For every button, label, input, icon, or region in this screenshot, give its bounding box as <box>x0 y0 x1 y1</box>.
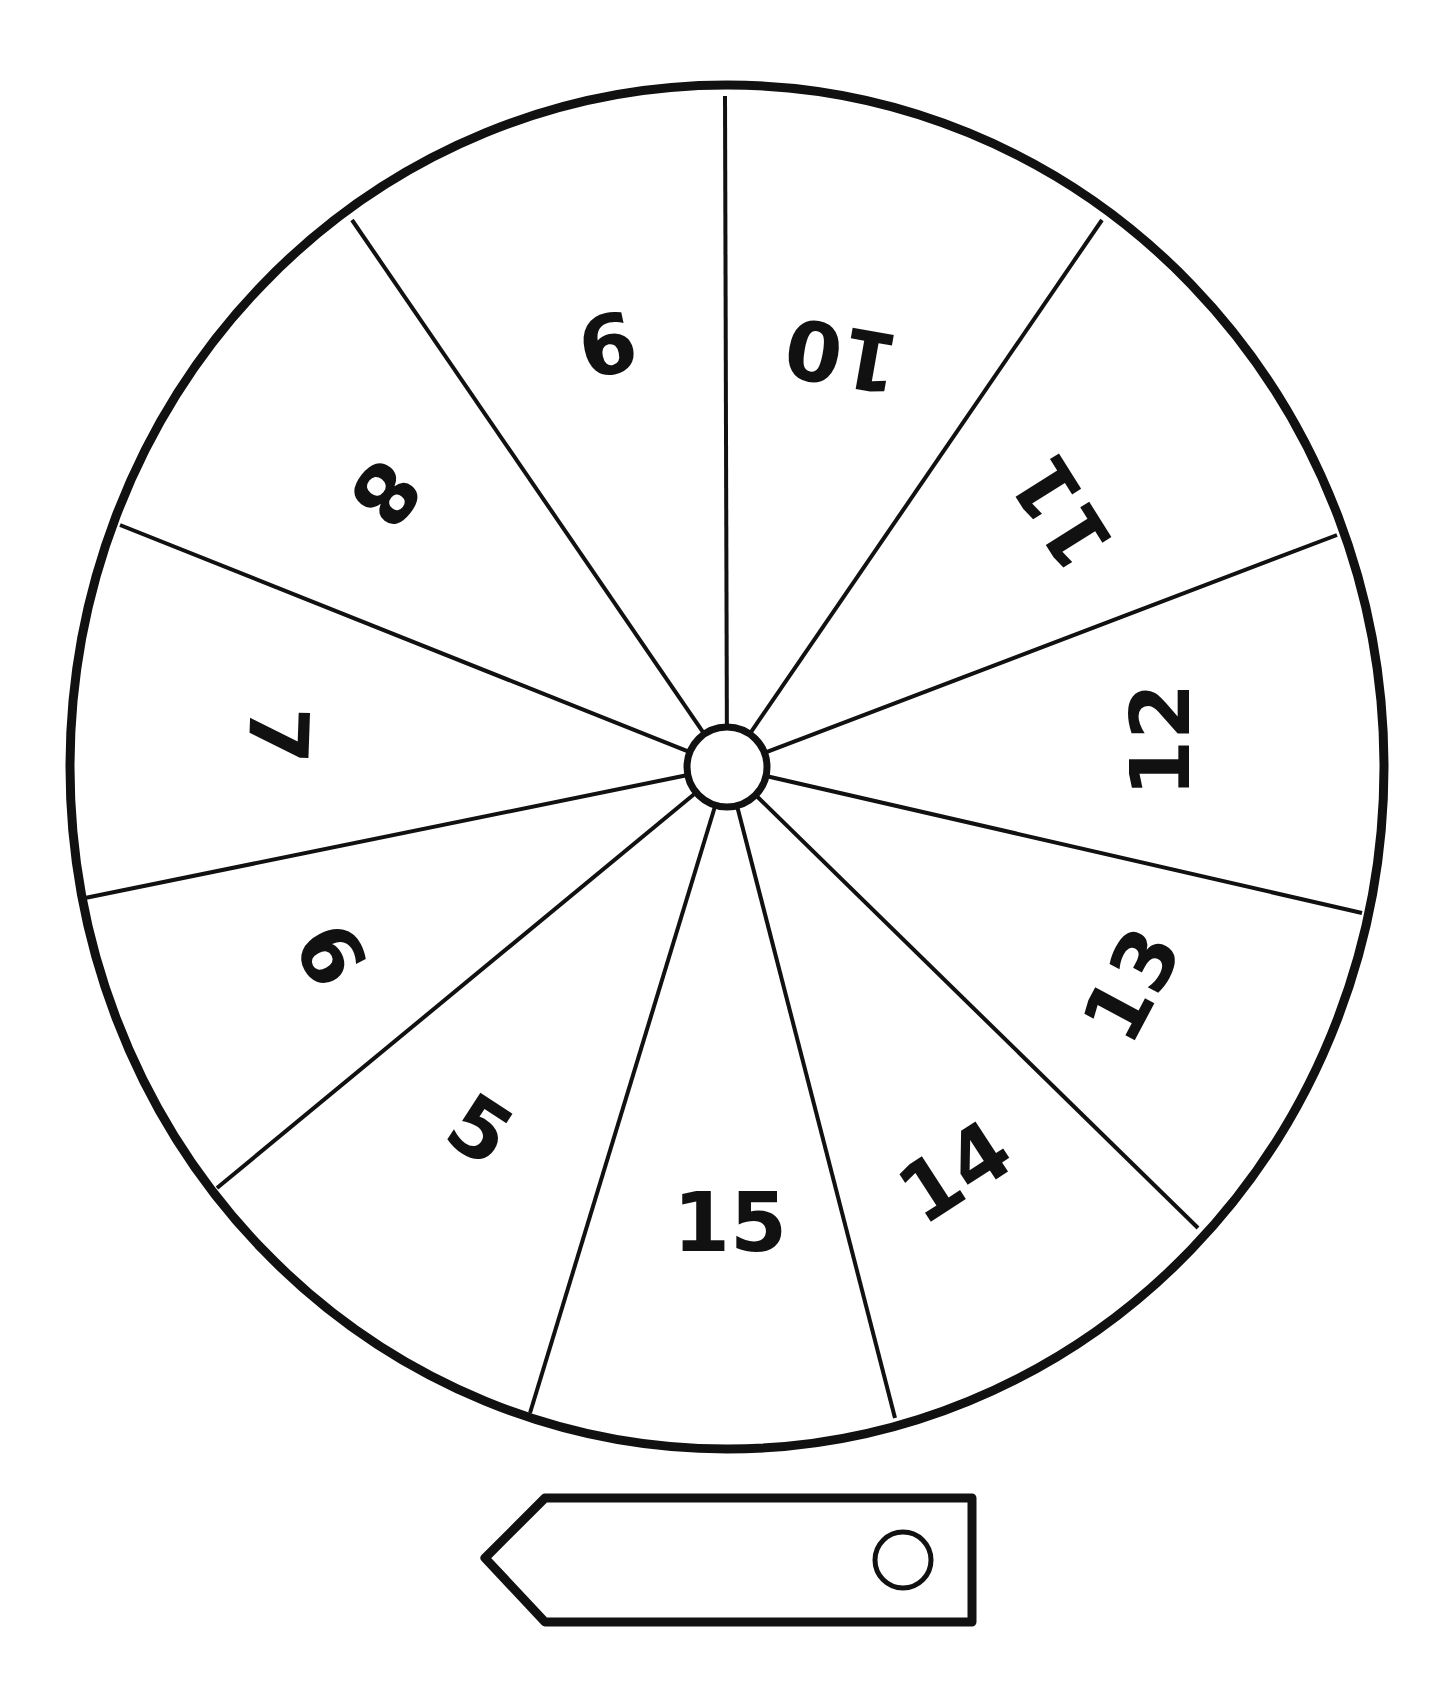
spinner-worksheet: 15141312111098765 <box>0 0 1448 1700</box>
segment-number-7: 7 <box>230 705 327 765</box>
segment-divider-line <box>725 96 727 727</box>
center-hub[interactable] <box>687 727 767 807</box>
spinner-pointer[interactable] <box>485 1498 972 1622</box>
segment-number-10: 10 <box>778 298 907 411</box>
segment-number-12: 12 <box>1113 683 1208 797</box>
pointer-pivot-hole <box>875 1532 931 1588</box>
spinner-wheel[interactable]: 15141312111098765 <box>70 85 1384 1449</box>
segment-number-15: 15 <box>673 1175 787 1270</box>
